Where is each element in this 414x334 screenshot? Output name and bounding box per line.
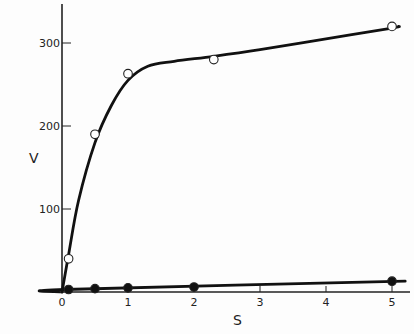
open-circles-point bbox=[91, 130, 100, 139]
y-tick-label: 200 bbox=[39, 120, 60, 133]
x-tick-label: 4 bbox=[323, 296, 330, 309]
y-tick-label: 300 bbox=[39, 37, 60, 50]
open-circles-curve bbox=[62, 26, 399, 292]
filled-circles-point bbox=[91, 284, 100, 293]
x-axis-label: S bbox=[233, 312, 242, 328]
axes: 012345100200300 bbox=[39, 4, 410, 309]
fit-curves bbox=[39, 26, 405, 292]
x-tick-label: 2 bbox=[191, 296, 198, 309]
open-circles-point bbox=[210, 55, 219, 64]
filled-circles-point bbox=[388, 277, 397, 286]
y-axis-label: V bbox=[29, 150, 39, 166]
x-tick-label: 3 bbox=[257, 296, 264, 309]
x-tick-label: 5 bbox=[389, 296, 396, 309]
chart: 012345100200300 V S bbox=[0, 0, 414, 334]
filled-circles-point bbox=[64, 285, 73, 294]
open-circles-point bbox=[388, 22, 397, 31]
open-circles-point bbox=[64, 254, 73, 263]
filled-circles-point bbox=[124, 284, 133, 293]
data-points bbox=[64, 22, 396, 294]
open-circles-point bbox=[124, 69, 133, 78]
x-tick-label: 1 bbox=[125, 296, 132, 309]
y-tick-label: 100 bbox=[39, 203, 60, 216]
filled-circles-point bbox=[190, 283, 199, 292]
x-tick-label: 0 bbox=[59, 296, 66, 309]
